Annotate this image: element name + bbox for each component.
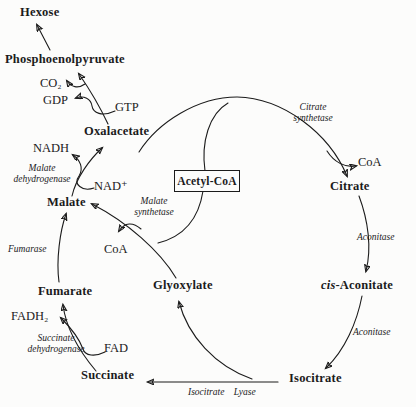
arrow-isocitrate-to-glyoxylate <box>179 302 252 379</box>
label-malate-dehydrogenase: Malate dehydrogenase <box>13 163 70 184</box>
swoosh-coa-citrate-branch <box>327 151 356 166</box>
label-succinate-dehydrogenase: Succinate dehydrogenase <box>27 333 84 354</box>
label-acetyl-coa: Acetyl-CoA <box>177 175 236 187</box>
label-malate: Malate <box>47 196 86 210</box>
label-cis-aconitate-prefix: cis <box>321 278 336 292</box>
label-isocitrate-lyase: Isocitrate Lyase <box>188 387 256 398</box>
label-glyoxylate: Glyoxylate <box>153 279 213 293</box>
label-malate-synthetase: Malate synthetase <box>134 196 174 217</box>
label-succinate: Succinate <box>81 369 134 383</box>
label-coa-right: CoA <box>358 156 382 170</box>
label-isocitrate: Isocitrate <box>289 372 342 386</box>
label-citrate: Citrate <box>330 180 370 194</box>
swoosh-co2-branch <box>67 81 85 87</box>
label-coa-left: CoA <box>104 243 128 257</box>
label-co2: CO₂ <box>40 77 62 91</box>
label-cis-aconitate: cis-Aconitate <box>321 279 393 293</box>
label-oxalacetate: Oxalacetate <box>84 125 149 139</box>
label-nadh: NADH <box>33 142 69 156</box>
label-aconitase-lower: Aconitase <box>353 327 390 338</box>
label-phosphoenolpyruvate: Phosphoenolpyruvate <box>5 53 125 67</box>
label-nad-plus: NAD⁺ <box>94 180 128 194</box>
acetyl-coa-box: Acetyl-CoA <box>174 170 240 192</box>
label-fadh2: FADH₂ <box>11 310 48 324</box>
label-fumarase: Fumarase <box>8 244 47 255</box>
arrow-oxalacetate-to-pep <box>79 74 108 124</box>
label-aconitase-upper: Aconitase <box>357 232 394 243</box>
arrow-fumarate-to-malate <box>58 214 66 282</box>
glyoxylate-cycle-diagram: Hexose Phosphoenolpyruvate Oxalacetate M… <box>0 0 416 407</box>
label-gdp: GDP <box>43 94 68 108</box>
label-cis-aconitate-suffix: -Aconitate <box>336 278 394 292</box>
arrow-pep-to-hexose <box>37 25 50 50</box>
label-hexose: Hexose <box>20 6 59 20</box>
label-gtp: GTP <box>115 101 139 115</box>
label-fumarate: Fumarate <box>38 285 92 299</box>
swoosh-coa-malate-branch <box>119 224 141 231</box>
connector-acetylcoa-to-citrate-arc <box>204 103 228 171</box>
label-fad: FAD <box>104 342 128 356</box>
label-citrate-synthetase: Citrate synthetase <box>293 102 333 123</box>
